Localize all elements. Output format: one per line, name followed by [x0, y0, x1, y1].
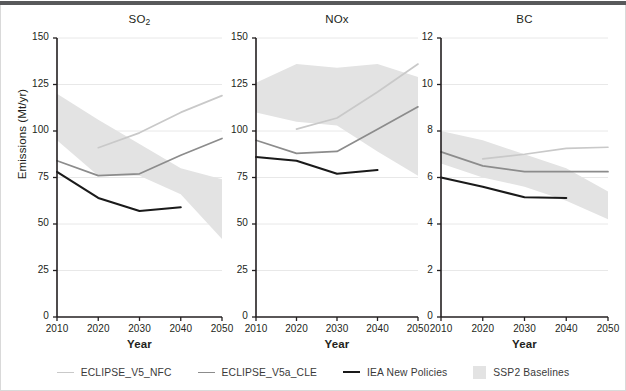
y-tick-label: 0: [15, 310, 49, 321]
y-tick-label: 125: [214, 78, 248, 89]
y-axis-label: Emissions (Mt/yr): [16, 54, 28, 214]
emissions-figure: 025507510012515020102020203020402050SO2Y…: [0, 0, 626, 391]
panel-title-so2: SO2: [57, 13, 222, 27]
legend-item-eclipse-v5a-cle[interactable]: ECLIPSE_V5a_CLE: [198, 367, 318, 378]
series-line-iea-new-policies: [256, 157, 378, 174]
panel-so2: [53, 38, 222, 321]
x-tick-label: 2030: [317, 323, 357, 334]
chart-legend: ECLIPSE_V5_NFC ECLIPSE_V5a_CLE IEA New P…: [0, 362, 626, 382]
x-axis-label-so2: Year: [57, 338, 222, 350]
x-tick-label: 2010: [37, 323, 77, 334]
y-tick-label: 2: [399, 264, 433, 275]
x-tick-label: 2010: [421, 323, 461, 334]
x-axis-label-bc: Year: [441, 338, 608, 350]
x-tick-label: 2010: [236, 323, 276, 334]
y-tick-label: 0: [399, 310, 433, 321]
legend-label: IEA New Policies: [367, 367, 447, 378]
y-tick-label: 4: [399, 217, 433, 228]
y-tick-label: 12: [399, 31, 433, 42]
y-tick-label: 6: [399, 171, 433, 182]
legend-line-icon: [57, 372, 74, 373]
legend-line-icon: [198, 372, 215, 373]
y-tick-label: 8: [399, 124, 433, 135]
x-tick-label: 2020: [78, 323, 118, 334]
legend-label: SSP2 Baselines: [493, 367, 569, 378]
legend-item-eclipse-v5-nfc[interactable]: ECLIPSE_V5_NFC: [57, 367, 172, 378]
ssp2-baselines-band: [441, 131, 608, 219]
panel-title-bc: BC: [441, 13, 608, 25]
y-tick-label: 75: [214, 171, 248, 182]
x-tick-label: 2040: [358, 323, 398, 334]
panel-bc: [437, 38, 608, 321]
y-tick-label: 150: [214, 31, 248, 42]
ssp2-baselines-band: [57, 94, 222, 239]
panel-nox: [252, 38, 418, 321]
x-tick-label: 2040: [161, 323, 201, 334]
panel-title-nox: NOx: [256, 13, 418, 25]
x-tick-label: 2040: [546, 323, 586, 334]
y-tick-label: 25: [214, 264, 248, 275]
legend-item-ssp2-baselines[interactable]: SSP2 Baselines: [473, 366, 569, 379]
legend-band-swatch-icon: [473, 366, 486, 379]
y-tick-label: 10: [399, 78, 433, 89]
y-tick-label: 0: [214, 310, 248, 321]
legend-label: ECLIPSE_V5a_CLE: [222, 367, 318, 378]
y-tick-label: 150: [15, 31, 49, 42]
x-tick-label: 2030: [120, 323, 160, 334]
x-tick-label: 2020: [463, 323, 503, 334]
x-tick-label: 2050: [588, 323, 626, 334]
legend-label: ECLIPSE_V5_NFC: [81, 367, 172, 378]
x-tick-label: 2030: [505, 323, 545, 334]
legend-item-iea-new-policies[interactable]: IEA New Policies: [343, 367, 447, 378]
y-tick-label: 100: [214, 124, 248, 135]
y-tick-label: 50: [214, 217, 248, 228]
y-tick-label: 25: [15, 264, 49, 275]
x-tick-label: 2020: [277, 323, 317, 334]
x-axis-label-nox: Year: [256, 338, 418, 350]
legend-line-icon: [343, 371, 360, 373]
y-tick-label: 50: [15, 217, 49, 228]
